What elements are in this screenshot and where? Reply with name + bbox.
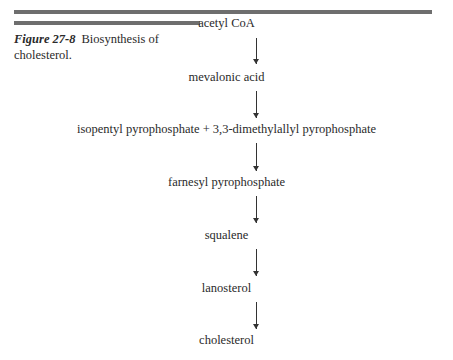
arrow-down-icon: [253, 143, 260, 171]
step-mevalonic-acid: mevalonic acid: [0, 70, 453, 85]
top-rule: [14, 10, 432, 14]
step-farnesyl-pyrophosphate: farnesyl pyrophosphate: [0, 175, 453, 190]
figure-number: Figure 27-8: [14, 32, 75, 46]
step-isopentyl-dimethylallyl-pyrophosphate: isopentyl pyrophosphate + 3,3-dimethylal…: [0, 122, 453, 137]
arrow-down-icon: [253, 302, 260, 329]
arrow-down-icon: [253, 196, 260, 223]
step-squalene: squalene: [0, 228, 453, 243]
arrow-down-icon: [253, 249, 260, 276]
figure-caption: Figure 27-8Biosynthesis of cholesterol.: [14, 31, 204, 63]
step-lanosterol: lanosterol: [0, 281, 453, 296]
step-cholesterol: cholesterol: [0, 333, 453, 348]
arrow-down-icon: [253, 91, 260, 118]
step-acetyl-coa: acetyl CoA: [0, 16, 453, 31]
arrow-down-icon: [253, 38, 260, 64]
